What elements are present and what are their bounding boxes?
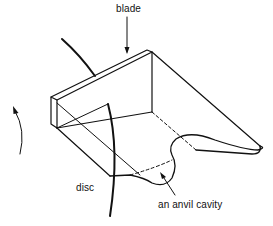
- body-right-edge: [152, 52, 260, 146]
- curved-arrow-up-icon: [13, 106, 22, 154]
- disc-label: disc: [76, 182, 94, 193]
- blade-label: blade: [116, 3, 141, 14]
- disc-arc-lower: [108, 104, 115, 216]
- arrow-down-icon: [125, 17, 130, 54]
- disc-arc-upper: [62, 39, 95, 76]
- anvil-blade-diagram: blade disc an anvil cavity: [0, 0, 273, 226]
- disc-face-top-edge: [57, 104, 108, 128]
- cavity-hidden-edge-lower: [130, 160, 172, 175]
- diagram-drawing: [0, 0, 273, 226]
- cavity-hidden-edge-upper: [152, 112, 196, 150]
- body-bottom-edge: [57, 128, 110, 176]
- anvil-cavity-label: an anvil cavity: [158, 199, 222, 210]
- blade-slab: [51, 50, 152, 128]
